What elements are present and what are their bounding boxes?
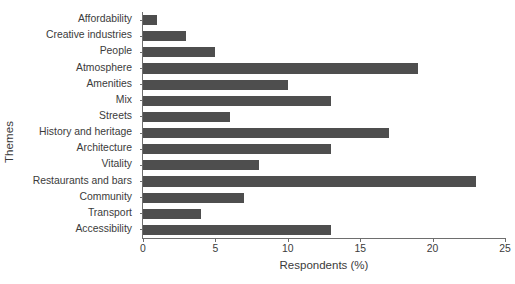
x-axis-tick-label: 25 — [499, 243, 511, 255]
bar — [143, 80, 288, 90]
bar-row — [143, 12, 505, 28]
bar — [143, 193, 244, 203]
bar — [143, 160, 259, 170]
x-axis-tick-mark — [505, 239, 506, 242]
bar-row — [143, 28, 505, 44]
x-axis-tick-label: 10 — [282, 243, 294, 255]
y-axis-tick-label: People — [0, 46, 137, 56]
x-axis-tick-label: 15 — [354, 243, 366, 255]
y-axis-tick-label: History and heritage — [0, 127, 137, 137]
bar-chart: Themes AffordabilityCreative industriesP… — [0, 0, 515, 284]
bar-row — [143, 60, 505, 76]
bar — [143, 144, 331, 154]
x-axis-tick-label: 0 — [140, 243, 146, 255]
y-axis-tick-label: Accessibility — [0, 224, 137, 234]
x-axis-title: Respondents (%) — [143, 259, 505, 271]
bar-row — [143, 206, 505, 222]
bar — [143, 31, 186, 41]
y-axis-tick-label: Mix — [0, 95, 137, 105]
x-axis-tick-mark — [215, 239, 216, 242]
bar — [143, 63, 418, 73]
bar-row — [143, 77, 505, 93]
y-axis-tick-label: Transport — [0, 208, 137, 218]
y-axis-tick-label: Restaurants and bars — [0, 176, 137, 186]
bar — [143, 47, 215, 57]
bar-row — [143, 125, 505, 141]
bar-row — [143, 141, 505, 157]
y-axis-tick-label: Vitality — [0, 159, 137, 169]
bar-row — [143, 44, 505, 60]
bar — [143, 15, 157, 25]
y-axis-tick-label: Architecture — [0, 143, 137, 153]
y-axis-tick-labels: AffordabilityCreative industriesPeopleAt… — [0, 12, 137, 238]
bar-row — [143, 222, 505, 238]
x-axis-tick-mark — [360, 239, 361, 242]
y-axis-tick-label: Amenities — [0, 79, 137, 89]
plot-area — [143, 12, 505, 238]
bar-row — [143, 93, 505, 109]
bar — [143, 112, 230, 122]
bar — [143, 96, 331, 106]
y-axis-tick-label: Community — [0, 192, 137, 202]
y-axis-tick-label: Affordability — [0, 14, 137, 24]
x-axis-tick-mark — [288, 239, 289, 242]
bar — [143, 128, 389, 138]
x-axis-tick-label: 20 — [427, 243, 439, 255]
bar-row — [143, 173, 505, 189]
bar — [143, 176, 476, 186]
bar-row — [143, 190, 505, 206]
y-axis-tick-label: Creative industries — [0, 30, 137, 40]
bar — [143, 225, 331, 235]
x-axis-tick-label: 5 — [213, 243, 219, 255]
y-axis-tick-label: Streets — [0, 111, 137, 121]
bar — [143, 209, 201, 219]
x-axis-tick-mark — [143, 239, 144, 242]
bar-row — [143, 157, 505, 173]
bar-row — [143, 109, 505, 125]
y-axis-tick-label: Atmosphere — [0, 63, 137, 73]
x-axis-tick-mark — [433, 239, 434, 242]
x-axis-tick-labels: 0510152025 — [143, 239, 505, 261]
